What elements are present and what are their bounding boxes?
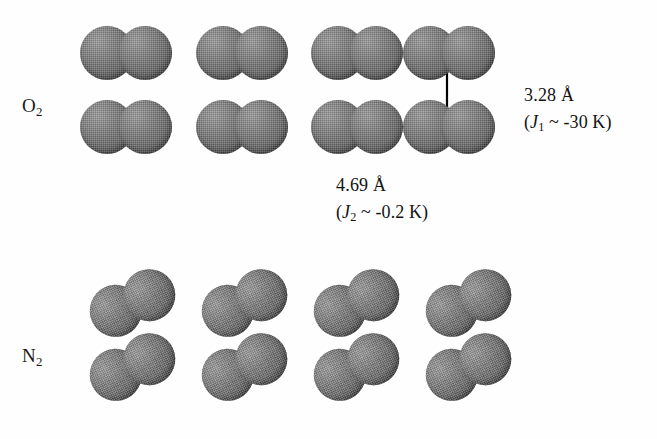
coupling-symbol-j2: J2 [342,202,356,222]
species-subscript: 2 [36,354,42,369]
coupling-symbol-letter: J [530,112,538,132]
molecule-oxygen [403,26,495,80]
interlayer-distance-annotation: 3.28 Å (J1 ~ -30 K) [524,82,612,137]
molecule-oxygen [80,100,172,154]
molecule-nitrogen [305,261,408,346]
atom-sphere [349,26,403,80]
atom-sphere [234,100,288,154]
interlayer-coupling-value: (J1 ~ -30 K) [524,109,612,137]
intralayer-coupling-value: (J2 ~ -0.2 K) [336,199,428,227]
interlayer-distance-value: 3.28 Å [524,82,612,109]
molecule-nitrogen [81,325,184,410]
molecule-nitrogen [81,261,184,346]
coupling-symbol-letter: J [342,202,350,222]
atom-sphere [441,100,495,154]
atom-sphere [234,26,288,80]
atom-sphere [118,100,172,154]
molecule-nitrogen [193,261,296,346]
molecule-nitrogen [417,325,520,410]
atom-sphere [118,26,172,80]
molecule-nitrogen [193,325,296,410]
coupling-magnitude: ~ -30 K) [544,112,611,132]
molecule-oxygen [311,26,403,80]
molecule-nitrogen [417,261,520,346]
intralayer-distance-annotation: 4.69 Å (J2 ~ -0.2 K) [336,172,428,227]
molecule-oxygen [403,100,495,154]
molecule-nitrogen [305,325,408,410]
species-symbol: N [22,345,36,366]
intralayer-distance-value: 4.69 Å [336,172,428,199]
species-label-nitrogen: N2 [22,345,42,370]
molecule-oxygen [311,100,403,154]
atom-sphere [441,26,495,80]
molecule-oxygen [80,26,172,80]
molecule-oxygen [196,26,288,80]
coupling-symbol-j1: J1 [530,112,544,132]
species-symbol: O [22,95,36,116]
atom-sphere [349,100,403,154]
molecule-oxygen [196,100,288,154]
coupling-magnitude: ~ -0.2 K) [356,202,428,222]
molecular-lattice-figure: O2 N2 3.28 Å (J1 ~ -30 K) 4.69 Å ( [0,0,657,439]
species-label-oxygen: O2 [22,95,42,120]
species-subscript: 2 [36,104,42,119]
